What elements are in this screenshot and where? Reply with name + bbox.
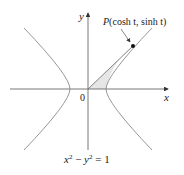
pointer-arrow — [121, 29, 130, 42]
equation-label: x2 − y2 = 1 — [63, 153, 110, 165]
origin-label: 0 — [80, 92, 85, 103]
point-label: P(cosh t, sinh t) — [102, 16, 166, 28]
y-axis-label: y — [78, 10, 84, 22]
radius-segment — [88, 46, 133, 89]
point-p — [131, 44, 135, 48]
x-axis-label: x — [163, 91, 169, 103]
hyperbola-diagram: y x 0 P(cosh t, sinh t) x2 − y2 = 1 — [0, 0, 184, 175]
